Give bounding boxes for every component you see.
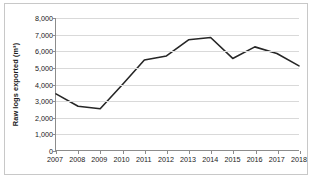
y-axis-tick-mark <box>53 101 56 102</box>
y-axis-title: Raw logs exported (m³) <box>8 4 24 164</box>
chart-container: Raw logs exported (m³) 01,0002,0003,0004… <box>4 3 308 175</box>
plot-area <box>55 18 299 151</box>
gridline <box>56 85 299 86</box>
y-axis-tick-mark <box>53 118 56 119</box>
y-axis-tick-mark <box>53 51 56 52</box>
x-axis-tick-mark <box>145 151 146 154</box>
y-axis-tick-mark <box>53 85 56 86</box>
y-axis-tick-mark <box>53 134 56 135</box>
gridline <box>56 118 299 119</box>
y-axis-tick-label: 1,000 <box>23 130 53 139</box>
x-axis-tick-mark <box>233 151 234 154</box>
x-axis-tick-mark <box>78 151 79 154</box>
x-axis-tick-mark <box>300 151 301 154</box>
gridline <box>56 101 299 102</box>
y-axis-tick-mark <box>53 68 56 69</box>
y-axis-tick-label: 8,000 <box>23 14 53 23</box>
y-axis-tick-label: 7,000 <box>23 30 53 39</box>
x-axis-tick-mark <box>189 151 190 154</box>
y-axis-tick-label: 3,000 <box>23 97 53 106</box>
y-axis-tick-mark <box>53 35 56 36</box>
y-axis-title-text: Raw logs exported (m³) <box>12 42 21 125</box>
series-line-raw-logs-exported <box>56 37 299 108</box>
y-axis-tick-label: 6,000 <box>23 47 53 56</box>
x-axis-tick-mark <box>167 151 168 154</box>
gridline <box>56 35 299 36</box>
x-axis-tick-mark <box>56 151 57 154</box>
y-axis-tick-label: 2,000 <box>23 113 53 122</box>
x-axis-tick-mark <box>100 151 101 154</box>
x-axis-tick-mark <box>211 151 212 154</box>
gridline <box>56 134 299 135</box>
x-axis-tick-label: 2018 <box>285 155 313 164</box>
x-axis-tick-mark <box>256 151 257 154</box>
gridline <box>56 68 299 69</box>
gridline <box>56 18 299 19</box>
y-axis-tick-labels: 01,0002,0003,0004,0005,0006,0007,0008,00… <box>23 18 53 151</box>
x-axis-tick-mark <box>278 151 279 154</box>
y-axis-tick-label: 5,000 <box>23 63 53 72</box>
gridline <box>56 51 299 52</box>
x-axis-tick-mark <box>123 151 124 154</box>
y-axis-tick-label: 4,000 <box>23 80 53 89</box>
y-axis-tick-mark <box>53 18 56 19</box>
x-axis-tick-labels: 2007200820092010201120122013201420152016… <box>55 155 299 169</box>
